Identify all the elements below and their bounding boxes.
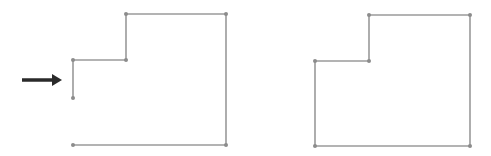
vertex-point	[71, 96, 75, 100]
vertex-point	[224, 143, 228, 147]
vertex-point	[367, 13, 371, 17]
arrow-icon	[22, 74, 62, 86]
vertex-point	[468, 144, 472, 148]
vertex-point	[468, 13, 472, 17]
diagram-canvas	[0, 0, 491, 156]
vertex-point	[124, 12, 128, 16]
vertex-point	[71, 143, 75, 147]
open-shape	[71, 12, 228, 147]
vertex-point	[313, 59, 317, 63]
vertex-point	[224, 12, 228, 16]
vertex-point	[124, 58, 128, 62]
vertex-point	[313, 144, 317, 148]
closed-shape-outline	[315, 15, 470, 146]
closed-shape	[313, 13, 472, 148]
open-shape-outline	[73, 14, 226, 145]
vertex-point	[367, 59, 371, 63]
vertex-point	[71, 58, 75, 62]
